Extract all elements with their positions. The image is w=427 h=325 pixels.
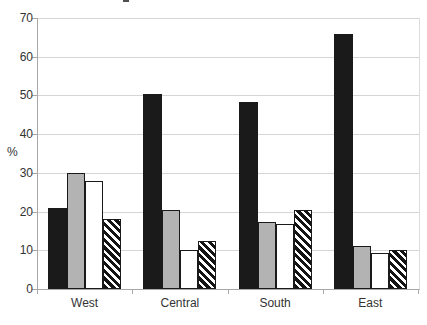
y-tick-label-50: 50 [3,88,33,102]
y-tick-label-10: 10 [3,243,33,257]
bar-gray-solid-central [162,210,180,289]
y-axis-label: % [7,145,18,159]
bar-black-solid-central [143,94,162,290]
bar-black-solid-west [48,208,67,289]
x-category-label-south: South [230,296,320,310]
gridline-70 [38,18,419,19]
x-tick-1 [132,290,133,294]
gridline-50 [38,95,419,96]
y-tick-label-20: 20 [3,205,33,219]
x-category-label-central: Central [135,296,225,310]
bar-gray-solid-east [353,246,371,289]
bar-black-solid-east [334,34,353,290]
y-tick-label-70: 70 [3,11,33,25]
bar-gray-solid-south [258,222,276,289]
x-tick-0 [37,290,38,294]
y-tick-label-60: 60 [3,50,33,64]
bar-diagonal-hatch-central [198,241,216,289]
y-tick-label-40: 40 [3,127,33,141]
y-tick-label-30: 30 [3,166,33,180]
cropped-title-fragment [123,0,129,2]
gridline-30 [38,173,419,174]
bar-white-outline-central [180,250,198,289]
bar-white-outline-south [276,224,294,289]
x-tick-3 [323,290,324,294]
gridline-40 [38,134,419,135]
gridline-60 [38,57,419,58]
bar-gray-solid-west [67,173,85,289]
bar-white-outline-east [371,253,389,289]
bar-diagonal-hatch-east [389,250,407,289]
bar-chart: % 010203040506070 WestCentralSouthEast [0,0,427,325]
bar-black-solid-south [239,102,258,289]
bar-diagonal-hatch-west [103,219,121,289]
bar-white-outline-west [85,181,103,289]
x-tick-2 [228,290,229,294]
y-tick-label-0: 0 [3,282,33,296]
plot-area [37,18,420,290]
bar-diagonal-hatch-south [294,210,312,289]
x-category-label-east: East [325,296,415,310]
x-tick-4 [418,290,419,294]
x-category-label-west: West [40,296,130,310]
